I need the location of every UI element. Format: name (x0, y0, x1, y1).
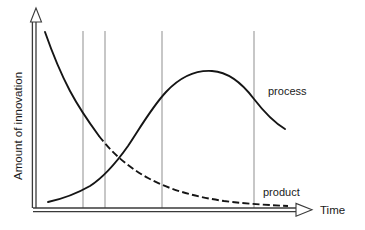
y-axis (31, 8, 42, 208)
product-series-label: product (263, 186, 300, 198)
innovation-chart-figure: Amount of innovation Time process produc… (0, 0, 365, 230)
y-axis-arrowhead-icon (31, 8, 42, 22)
x-axis-arrowhead-icon (296, 203, 312, 216)
product-curve-solid-segment (45, 32, 99, 136)
chart-canvas: Amount of innovation Time process produc… (0, 0, 365, 230)
y-axis-label: Amount of innovation (12, 72, 24, 180)
x-axis (33, 203, 312, 216)
gridlines-group (83, 31, 254, 208)
x-axis-label: Time (320, 204, 345, 216)
process-series-label: process (268, 85, 307, 97)
